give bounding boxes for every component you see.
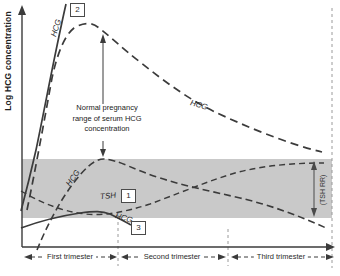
figure-hcg-tsh-pregnancy: Log HCG concentration HCG HCG HCG TSH HC… [0,0,340,276]
y-axis-label: Log HCG concentration [3,0,13,131]
marker-box-3: 3 [131,221,146,235]
label-tsh: TSH [100,191,117,202]
x-label-third-trimester: Third trimester [254,252,308,261]
arrow-up-icon [100,34,106,43]
tsh-rr-label: (TSH RR) [319,175,326,206]
annotation-line-1: Normal pregnancy [63,103,151,114]
x-axis-arrowhead-icon [326,243,335,251]
plot-canvas [0,0,340,276]
tsh-reference-band [22,159,332,218]
marker-box-2: 2 [70,3,85,17]
annotation-line-2: range of serum HCG [63,114,151,125]
x-label-second-trimester: Second trimester [141,252,204,261]
annotation-normal-range: Normal pregnancy range of serum HCG conc… [63,103,151,135]
arrow-down-icon [100,149,106,157]
trimester-divider-lines [118,8,332,268]
x-label-first-trimester: First trimester [44,252,96,261]
y-axis-arrowhead-icon [18,5,26,15]
marker-box-1: 1 [121,189,136,203]
annotation-line-3: concentration [63,124,151,135]
